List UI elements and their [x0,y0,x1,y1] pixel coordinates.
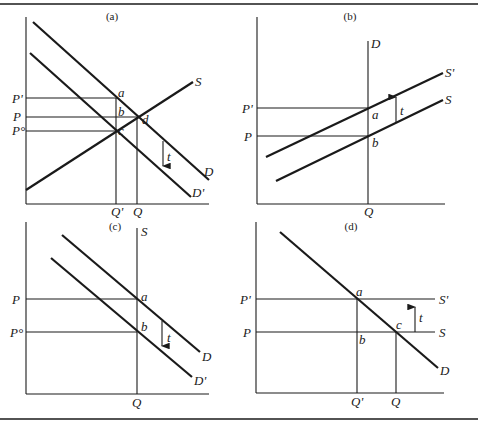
panel-b-label-q: Q [364,204,374,219]
panel-b-label-p-prime: P' [241,101,253,116]
panel-a-point-a: a [118,85,125,100]
panel-b-label-d: D [370,36,381,51]
panel-c-point-b: b [141,319,148,334]
panel-d-label-d: D [439,363,450,378]
panel-c-demand-prime-curve [51,258,192,377]
panel-a-label-p: P [12,109,21,124]
panel-b-label-p: P [243,129,252,144]
panel-d-point-b: b [359,332,366,347]
panel-d-point-c: c [396,317,402,332]
panel-c-point-a: a [141,289,148,304]
panel-d-tax-label: t [419,310,423,325]
panel-b-point-a: a [372,107,379,122]
tax-incidence-figure: (a) P' P P° Q' Q a b c d t D D' S (b) [0,0,478,427]
panel-a-demand-prime-curve [30,53,191,197]
panel-d-point-a: a [356,284,363,299]
panel-c-caption: (c) [109,220,122,233]
panel-c-label-s: S [141,224,148,239]
panel-d-label-q-prime: Q' [351,394,363,409]
panel-a-caption: (a) [106,10,119,23]
panel-d-label-p-prime: P' [239,292,251,307]
panel-b: (b) P' P Q a b t D S' S [241,10,455,219]
panel-a-point-b: b [118,104,125,119]
panel-d-label-q: Q [391,394,401,409]
panel-b-label-s-prime: S' [445,65,455,80]
panel-a-label-q-prime: Q' [111,204,123,219]
panel-a-demand-curve [33,22,209,180]
panel-d-demand-curve [280,232,438,368]
panel-a: (a) P' P P° Q' Q a b c d t D D' S [11,10,214,219]
panel-c-label-d-prime: D' [193,373,206,388]
panel-d: (d) P' P Q' Q a b c t S' S D [239,220,450,409]
panel-a-point-d: d [142,112,149,127]
panel-b-tax-label: t [400,103,404,118]
panel-b-supply-prime-curve [266,73,443,157]
panel-b-point-b: b [372,135,379,150]
panel-b-caption: (b) [344,10,357,23]
panel-d-caption: (d) [345,220,358,233]
panel-a-label-d: D [203,164,214,179]
panel-a-point-c: c [118,123,124,138]
panel-d-label-p: P [242,325,251,340]
panel-c-label-p-zero: P° [9,325,23,340]
panel-b-label-s: S [445,92,452,107]
panel-c-tax-label: t [167,330,171,345]
panel-a-label-q: Q [133,204,143,219]
panel-a-tax-label: t [167,149,171,164]
panel-a-label-d-prime: D' [191,185,204,200]
panel-c-demand-curve [62,235,200,352]
panel-a-label-p-prime: P' [11,91,23,106]
panel-d-label-s: S [439,325,446,340]
panel-a-label-s: S [195,74,202,89]
panel-c-label-p: P [11,292,20,307]
panel-c-label-q: Q [132,395,142,410]
panel-a-label-p-zero: P° [11,123,25,138]
panel-c-label-d: D [201,349,212,364]
panel-c: (c) P P° Q a b t S D D' [9,220,212,410]
panel-d-label-s-prime: S' [439,292,449,307]
